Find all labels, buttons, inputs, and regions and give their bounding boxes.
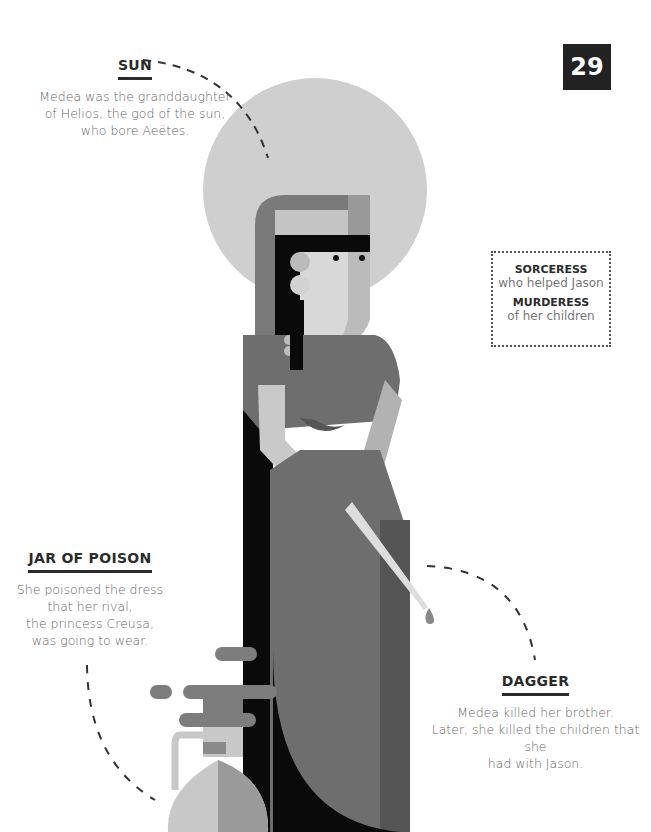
dagger-title: DAGGER — [502, 673, 570, 696]
sun-description: Medea was the granddaughter of Helios, t… — [25, 88, 245, 139]
ear — [290, 252, 310, 272]
dagger-leader-line — [427, 566, 535, 660]
headband — [275, 210, 348, 235]
murderess-heading: MURDERESS — [493, 296, 609, 309]
murderess-text: of her children — [493, 309, 609, 323]
page-number: 29 — [563, 44, 611, 90]
eye-right — [359, 255, 365, 261]
dagger-description: Medea killed her brother. Later, she kil… — [420, 704, 651, 772]
jar-description: She poisoned the dress that her rival, t… — [0, 581, 180, 649]
sun-callout: SUN Medea was the granddaughter of Helio… — [25, 55, 245, 139]
eye-left — [333, 255, 339, 261]
smoke-puff — [215, 647, 257, 661]
info-box: SORCERESS who helped Jason MURDERESS of … — [491, 251, 611, 347]
dagger-callout: DAGGER Medea killed her brother. Later, … — [420, 671, 651, 772]
blood-drop — [425, 608, 434, 624]
sorceress-heading: SORCERESS — [493, 263, 609, 276]
jar-title: JAR OF POISON — [28, 550, 151, 573]
jar-callout: JAR OF POISON She poisoned the dress tha… — [0, 548, 180, 649]
jar-leader-line — [87, 665, 155, 800]
sun-title: SUN — [118, 57, 152, 80]
sorceress-text: who helped Jason — [493, 276, 609, 290]
